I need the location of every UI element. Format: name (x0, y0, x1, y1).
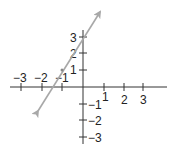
x-tick-label: 2 (121, 93, 128, 107)
y-tick-label: 3 (70, 31, 77, 45)
point-marker (61, 69, 64, 72)
y-tick-label: 1 (70, 63, 77, 77)
x-tick-label: 3 (140, 93, 147, 107)
x-tick-label: 1 (102, 90, 109, 104)
x-tick-label: −2 (34, 71, 48, 85)
y-tick-label: −2 (88, 114, 102, 128)
x-tick-label: −3 (13, 71, 27, 85)
y-tick-label: −3 (88, 131, 102, 145)
y-tick-label: −1 (88, 98, 102, 112)
line-y-equals-2x-plus-3 (38, 12, 100, 111)
coordinate-plane: −3 −2 −1 1 2 3 3 2 1 −1 −2 −3 (0, 0, 172, 159)
